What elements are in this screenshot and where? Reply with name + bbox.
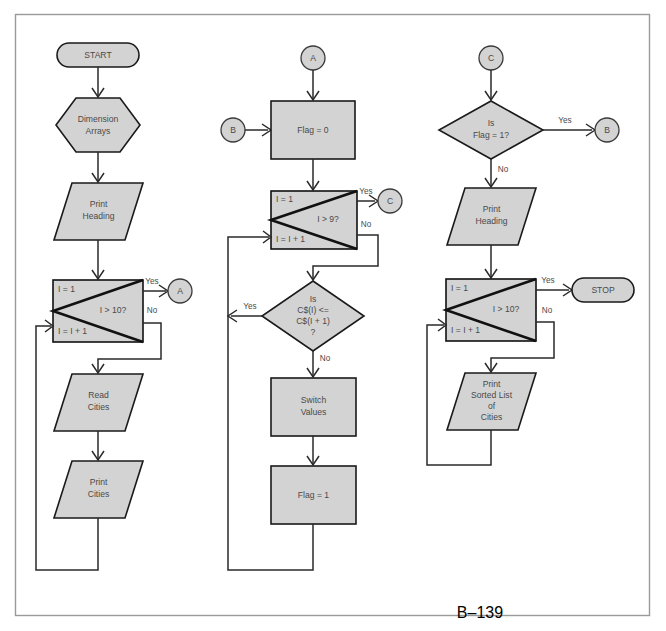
- dimension-arrays-line-1: Dimension: [78, 114, 119, 124]
- loop-1-yes-label: Yes: [145, 277, 158, 286]
- connector-c-in[interactable]: C: [479, 46, 503, 70]
- node-read-cities[interactable]: Read Cities: [54, 374, 143, 431]
- edge-print-cities-loopback: [36, 326, 98, 570]
- edge-flag1-loopback: [228, 316, 313, 570]
- node-loop-2[interactable]: I = 1 I = I + 1 I > 9?: [271, 191, 357, 249]
- loop-1-test: I > 10?: [100, 305, 127, 315]
- read-cities-line-2: Cities: [88, 402, 110, 412]
- stop-label: STOP: [591, 285, 615, 295]
- loop-3-init: I = 1: [451, 283, 468, 293]
- loop-1-init: I = 1: [58, 284, 75, 294]
- connector-c-out[interactable]: C: [378, 189, 402, 213]
- switch-values-line-2: Values: [301, 407, 327, 417]
- loop-2-yes-label: Yes: [359, 187, 372, 196]
- connector-c-out-label: C: [387, 196, 393, 206]
- dimension-arrays-line-2: Arrays: [86, 126, 111, 136]
- switch-values-line-1: Switch: [301, 395, 327, 405]
- connector-a-out-label: A: [177, 286, 183, 296]
- node-print-heading-2[interactable]: Print Heading: [447, 188, 536, 245]
- is-flag-one-line-1: Is: [488, 118, 495, 128]
- node-is-flag-one[interactable]: Is Flag = 1?: [439, 101, 543, 159]
- loop-3-increment: I = I + 1: [451, 325, 480, 335]
- folio-label: B–139: [457, 604, 503, 621]
- print-sorted-line-2: Sorted List: [471, 390, 513, 400]
- loop-3-test: I > 10?: [493, 304, 520, 314]
- compare-yes-label: Yes: [243, 302, 256, 311]
- loop-2-no-label: No: [361, 220, 372, 229]
- loop-2-increment: I = I + 1: [276, 234, 305, 244]
- print-sorted-line-1: Print: [483, 379, 501, 389]
- node-stop[interactable]: STOP: [572, 278, 634, 302]
- connector-b-in[interactable]: B: [221, 118, 245, 142]
- connector-b-out-label: B: [604, 125, 610, 135]
- start-label: START: [84, 50, 112, 60]
- compare-line-3: C$(I + 1): [296, 316, 330, 326]
- is-flag-one-no-label: No: [498, 165, 509, 174]
- connector-c-in-label: C: [488, 53, 494, 63]
- column-2: A B Flag = 0 I = 1 I = I + 1 I > 9? Yes: [221, 46, 402, 570]
- node-flag-one[interactable]: Flag = 1: [271, 466, 356, 524]
- print-heading-1-line-1: Print: [90, 199, 108, 209]
- connector-a-in[interactable]: A: [301, 46, 325, 70]
- loop-2-test: I > 9?: [317, 214, 339, 224]
- print-heading-1-line-2: Heading: [82, 211, 114, 221]
- is-flag-one-line-2: Flag = 1?: [473, 130, 509, 140]
- flowchart-page: START Dimension Arrays Print Heading I =…: [0, 0, 666, 631]
- connector-a-in-label: A: [310, 53, 316, 63]
- node-flag-zero[interactable]: Flag = 0: [271, 101, 355, 159]
- flag-one-label: Flag = 1: [298, 490, 330, 500]
- print-cities-line-1: Print: [90, 477, 108, 487]
- connector-b-out[interactable]: B: [595, 118, 619, 142]
- node-switch-values[interactable]: Switch Values: [271, 378, 356, 436]
- print-sorted-line-3: of: [488, 401, 496, 411]
- loop-1-no-label: No: [147, 306, 158, 315]
- node-compare[interactable]: Is C$(I) <= C$(I + 1) ?: [262, 281, 364, 351]
- compare-no-label: No: [320, 354, 331, 363]
- column-1: START Dimension Arrays Print Heading I =…: [36, 43, 192, 570]
- node-dimension-arrays[interactable]: Dimension Arrays: [56, 98, 140, 152]
- page-folio: B–139: [415, 604, 545, 622]
- print-sorted-line-4: Cities: [481, 412, 503, 422]
- connector-b-in-label: B: [230, 125, 236, 135]
- loop-2-init: I = 1: [276, 194, 293, 204]
- node-loop-1[interactable]: I = 1 I = I + 1 I > 10?: [53, 280, 143, 342]
- compare-line-1: Is: [310, 294, 317, 304]
- is-flag-one-yes-label: Yes: [558, 116, 571, 125]
- print-cities-line-2: Cities: [88, 489, 110, 499]
- node-print-sorted[interactable]: Print Sorted List of Cities: [447, 373, 536, 430]
- loop-3-yes-label: Yes: [541, 276, 554, 285]
- loop-3-no-label: No: [542, 306, 553, 315]
- node-loop-3[interactable]: I = 1 I = I + 1 I > 10?: [446, 279, 536, 341]
- loop-1-increment: I = I + 1: [58, 326, 87, 336]
- node-print-heading-1[interactable]: Print Heading: [54, 183, 143, 240]
- flowchart-canvas: START Dimension Arrays Print Heading I =…: [0, 0, 666, 631]
- connector-a-out[interactable]: A: [168, 279, 192, 303]
- column-3: C Is Flag = 1? Yes B No Print Heading: [427, 46, 634, 465]
- compare-line-2: C$(I) <=: [297, 305, 329, 315]
- flag-zero-label: Flag = 0: [297, 125, 329, 135]
- compare-line-4: ?: [311, 327, 316, 337]
- read-cities-line-1: Read: [88, 390, 109, 400]
- node-start[interactable]: START: [57, 43, 139, 67]
- print-heading-2-line-2: Heading: [475, 216, 507, 226]
- print-heading-2-line-1: Print: [483, 204, 501, 214]
- node-print-cities[interactable]: Print Cities: [54, 461, 143, 518]
